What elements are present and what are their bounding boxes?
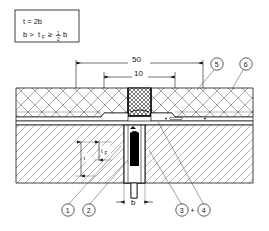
callout-3-label: 3 xyxy=(180,207,184,214)
callout-bubble-5[interactable]: 5 xyxy=(211,58,223,70)
dimension-50-label: 50 xyxy=(132,55,141,64)
formula-box: t = 2b b > t F ≥ 1 2 b xyxy=(15,10,79,42)
formula-line-1: t = 2b xyxy=(23,17,42,26)
formula-b-end: b xyxy=(63,30,67,39)
dimension-10-label: 10 xyxy=(134,69,143,78)
drawing-canvas: t = 2b b > t F ≥ 1 2 b xyxy=(0,0,269,231)
dimension-tf-subscript: F xyxy=(105,151,108,156)
callout-1-label: 1 xyxy=(66,207,70,214)
joint-sealant-plug xyxy=(128,88,151,116)
formula-b-gt: b > xyxy=(23,30,34,39)
formula-frac-denominator: 2 xyxy=(57,37,60,42)
callout-5-label: 5 xyxy=(215,61,219,68)
formula-line-2: b > t F ≥ 1 2 b xyxy=(23,30,67,42)
callout-bubble-3[interactable]: 3 xyxy=(176,204,188,216)
formula-t: t xyxy=(38,30,41,39)
callout-4-label: 4 xyxy=(202,207,206,214)
callout-plus-separator: + xyxy=(191,207,195,214)
formula-geq: ≥ xyxy=(48,30,52,39)
callout-6-label: 6 xyxy=(244,61,248,68)
dimension-inner-10: 10 xyxy=(104,69,175,88)
technical-drawing-svg: t = 2b b > t F ≥ 1 2 b xyxy=(0,0,269,231)
callout-bubble-6[interactable]: 6 xyxy=(240,58,252,70)
callout-bubble-4[interactable]: 4 xyxy=(198,204,210,216)
callout-bubble-1[interactable]: 1 xyxy=(62,204,74,216)
callout-bubble-2[interactable]: 2 xyxy=(83,204,95,216)
callout-2-label: 2 xyxy=(87,207,91,214)
lower-joint-slot xyxy=(124,125,145,198)
formula-t-subscript: F xyxy=(42,35,45,40)
formula-frac-numerator: 1 xyxy=(57,31,60,36)
dimension-b-label: b xyxy=(131,198,136,207)
